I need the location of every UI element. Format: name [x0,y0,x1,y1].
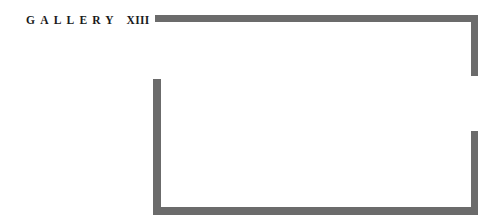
gallery-label: GALLERY XIII [26,13,149,27]
gallery-label-number: XIII [127,14,150,26]
wall-bottom [153,207,478,215]
wall-top [155,15,478,22]
wall-left [153,79,161,215]
gallery-label-word: GALLERY [26,14,118,26]
wall-right-lower [471,131,478,215]
wall-right-upper [471,15,478,76]
